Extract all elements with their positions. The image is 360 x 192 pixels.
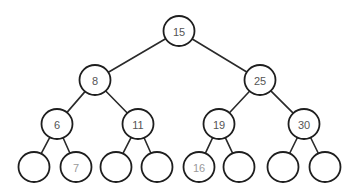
tree-edge-n19-l6 [225,138,232,154]
tree-node-empty [101,152,132,182]
tree-node-empty [142,152,173,182]
node-label: 15 [173,26,185,38]
node-circle [101,152,132,182]
tree-node-empty [19,152,50,182]
node-label: 30 [298,119,310,131]
tree-edge-n8-n6 [67,91,85,112]
tree-edge-n30-l7b [290,137,298,153]
tree-node-8: 8 [80,65,111,95]
tree-node-empty [224,152,255,182]
tree-edge-n15-n25 [192,39,247,72]
tree-edge-n6-l1 [41,137,50,154]
tree-edge-n8-n11 [105,91,127,114]
tree-node-30: 30 [289,109,320,139]
tree-edge-n30-l8 [311,137,319,153]
tree-edges [41,39,318,154]
node-label: 11 [132,119,143,131]
tree-node-11: 11 [123,109,154,139]
node-label: 25 [254,75,266,87]
node-circle [268,152,299,182]
node-label: 6 [54,119,60,131]
tree-edge-n19-l16 [205,138,212,154]
tree-edge-n15-n8 [108,39,166,73]
tree-node-empty [310,152,341,182]
node-circle [310,152,341,182]
node-circle [224,152,255,182]
tree-node-empty [268,152,299,182]
tree-edge-n25-n19 [229,91,250,113]
tree-node-19: 19 [204,109,235,139]
binary-tree-diagram: 158256111930716 [0,0,360,192]
node-label: 16 [193,162,205,174]
tree-nodes: 158256111930716 [19,16,341,182]
tree-node-16: 16 [184,152,215,182]
tree-node-25: 25 [245,65,276,95]
node-circle [19,152,50,182]
node-label: 7 [73,162,79,174]
tree-edge-n11-l3 [123,137,131,153]
tree-node-15: 15 [164,16,195,46]
tree-edge-n6-l7 [63,138,70,154]
tree-edge-n25-n30 [271,91,294,114]
tree-node-7: 7 [61,152,92,182]
node-label: 8 [92,75,98,87]
node-circle [142,152,173,182]
node-label: 19 [213,119,225,131]
tree-node-6: 6 [42,109,73,139]
tree-edge-n11-l4 [144,138,151,154]
